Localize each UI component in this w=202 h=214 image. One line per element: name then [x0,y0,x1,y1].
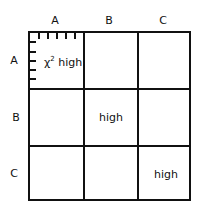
tick-mark [30,41,36,43]
grid-divider [137,33,139,199]
cell-aa-label: χ2 high [44,55,82,69]
tick-mark [65,33,67,39]
grid-divider [30,145,189,147]
column-label-b: B [99,15,119,26]
tick-mark [47,33,49,39]
tick-mark [38,33,40,39]
cell-cc-label: high [154,168,178,181]
cell-bb-label: high [99,111,123,124]
tick-mark [30,69,36,71]
tick-mark [30,78,36,80]
tick-mark [30,51,36,53]
tick-mark [30,60,36,62]
row-label-c: C [4,168,24,179]
column-label-c: C [153,15,173,26]
row-label-b: B [6,112,26,123]
row-label-a: A [4,55,24,66]
grid-divider [30,88,189,90]
tick-mark [74,33,76,39]
contingency-grid: χ2 high high high [28,31,191,201]
chi-superscript: 2 [50,55,54,63]
column-label-a: A [45,15,65,26]
cell-aa-text: high [58,56,82,69]
grid-divider [83,33,85,199]
tick-mark [56,33,58,39]
